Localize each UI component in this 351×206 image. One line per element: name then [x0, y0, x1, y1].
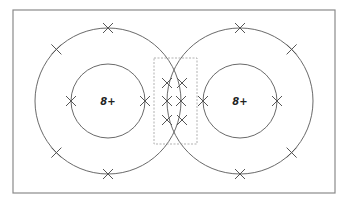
right-outer-position-mark-icon	[287, 148, 297, 158]
rings-layer	[35, 28, 313, 174]
right-outer-position-mark-icon	[287, 44, 297, 54]
crossing-position-mark-icon	[162, 115, 172, 125]
right-group-label: 8+	[232, 96, 247, 107]
overlap-zone-box	[154, 58, 197, 144]
position-marks-layer	[51, 23, 296, 179]
circle-formation-diagram: 8+ 8+	[0, 0, 351, 206]
left-group-label: 8+	[100, 96, 115, 107]
labels-layer: 8+ 8+	[100, 96, 247, 107]
crossing-position-mark-icon	[162, 78, 172, 88]
left-outer-position-mark-icon	[51, 148, 61, 158]
left-outer-position-mark-icon	[51, 44, 61, 54]
diagram-frame	[13, 10, 335, 193]
